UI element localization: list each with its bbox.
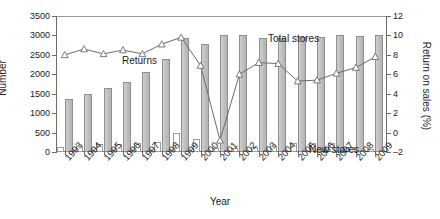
y-axis-label-left: Number [0, 60, 8, 96]
y-ticklabel-left-3000: 3000 [30, 31, 50, 40]
x-axis-label: Year [0, 196, 440, 207]
y-ticklabel-right--2: –2 [393, 148, 403, 157]
y-tick-right-4 [386, 94, 391, 95]
returns-marker-1996 [120, 47, 127, 53]
y-ticklabel-right-0: 0 [393, 128, 398, 137]
returns-marker-2000 [197, 62, 204, 68]
figure: 0500100015002000250030003500 –2024681012… [0, 0, 440, 219]
y-axis-label-right: Return on sales (%) [421, 42, 432, 130]
y-tick-right-2 [386, 113, 391, 114]
plot-area: 0500100015002000250030003500 –2024681012… [56, 16, 386, 152]
y-tick-left-1500 [52, 94, 57, 95]
y-tick-right-10 [386, 35, 391, 36]
y-tick-left-3500 [52, 16, 57, 17]
y-tick-left-500 [52, 133, 57, 134]
returns-marker-1994 [81, 46, 88, 52]
y-ticklabel-left-2000: 2000 [30, 70, 50, 79]
y-tick-left-1000 [52, 113, 57, 114]
returns-marker-1999 [178, 34, 185, 40]
y-ticklabel-right-6: 6 [393, 70, 398, 79]
y-tick-right-8 [386, 55, 391, 56]
y-tick-right-6 [386, 74, 391, 75]
y-tick-left-3000 [52, 35, 57, 36]
y-tick-left-2000 [52, 74, 57, 75]
annotation-new-stores: New stores [309, 144, 359, 155]
returns-line-series [56, 16, 386, 152]
y-ticklabel-left-500: 500 [35, 128, 50, 137]
y-ticklabel-right-8: 8 [393, 50, 398, 59]
returns-marker-2002 [236, 71, 243, 77]
y-ticklabel-left-3500: 3500 [30, 12, 50, 21]
y-tick-left-0 [52, 152, 57, 153]
y-ticklabel-left-1500: 1500 [30, 89, 50, 98]
y-ticklabel-right-2: 2 [393, 109, 398, 118]
annotation-total-stores: Total stores [268, 33, 319, 44]
y-ticklabel-right-10: 10 [393, 31, 403, 40]
returns-polyline [65, 37, 376, 140]
y-ticklabel-left-2500: 2500 [30, 50, 50, 59]
returns-marker-2009 [372, 53, 379, 59]
annotation-returns: Returns [122, 55, 157, 66]
returns-marker-2008 [352, 64, 359, 70]
y-tick-left-2500 [52, 55, 57, 56]
y-ticklabel-left-0: 0 [45, 148, 50, 157]
y-ticklabel-right-4: 4 [393, 89, 398, 98]
y-tick-right-0 [386, 133, 391, 134]
y-ticklabel-right-12: 12 [393, 12, 403, 21]
returns-marker-2001 [217, 137, 224, 143]
y-ticklabel-left-1000: 1000 [30, 109, 50, 118]
y-tick-right-12 [386, 16, 391, 17]
